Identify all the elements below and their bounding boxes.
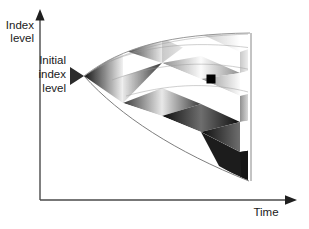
initial-index-level-line3: level — [42, 82, 66, 94]
lattice-fan-figure: Index level Time Initial index level — [0, 0, 309, 229]
lattice-cell — [240, 93, 252, 122]
y-axis-label-line2: level — [10, 32, 34, 44]
lattice-cell — [240, 33, 252, 52]
lattice-cell-rim — [240, 150, 252, 186]
x-axis-arrow-icon — [285, 195, 297, 205]
x-axis-label: Time — [253, 206, 278, 218]
lattice-cell — [240, 120, 252, 152]
y-axis-arrow-icon — [35, 9, 44, 21]
y-axis-label-line1: Index — [6, 19, 34, 31]
initial-index-level-pointer-icon — [70, 67, 84, 85]
node-marker[interactable] — [207, 75, 216, 84]
fan-body — [70, 20, 270, 200]
initial-index-level-line2: index — [39, 68, 67, 80]
lattice-cell — [240, 48, 252, 73]
initial-index-level-line1: Initial — [39, 54, 66, 66]
lattice-cell — [240, 70, 252, 96]
figure-canvas: Index level Time Initial index level — [0, 0, 309, 229]
